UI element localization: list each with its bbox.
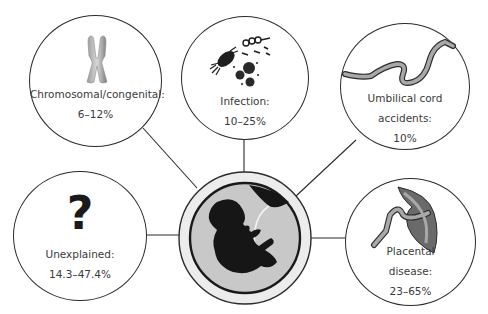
unexplained-value: 14.3–47.4% xyxy=(14,264,146,284)
fetus-in-womb-icon xyxy=(177,170,313,306)
infection-label: Infection: 10–25% xyxy=(182,91,308,131)
node-umbilical: Umbilical cord accidents: 10% xyxy=(340,23,470,150)
microbes-icon xyxy=(204,31,294,91)
umbilical-title-line1: Umbilical cord xyxy=(341,88,469,108)
placental-title-line1: Placental xyxy=(346,241,475,261)
umbilical-label: Umbilical cord accidents: 10% xyxy=(341,88,469,148)
placental-value: 23–65% xyxy=(346,281,475,301)
stillbirth-causes-diagram: Chromosomal/congenital: 6–12% Infection:… xyxy=(0,0,488,314)
node-placental: Placental disease: 23–65% xyxy=(345,178,476,306)
unexplained-title: Unexplained: xyxy=(14,244,146,264)
chromosome-icon xyxy=(77,34,117,84)
unexplained-label: Unexplained: 14.3–47.4% xyxy=(14,244,146,284)
umbilical-value: 10% xyxy=(341,128,469,148)
umbilical-title-line2: accidents: xyxy=(341,108,469,128)
chromosomal-label: Chromosomal/congenital: 6–12% xyxy=(30,84,161,124)
infection-value: 10–25% xyxy=(182,111,308,131)
placental-label: Placental disease: 23–65% xyxy=(346,241,475,301)
placental-title-line2: disease: xyxy=(346,261,475,281)
question-mark-icon: ? xyxy=(14,186,146,240)
node-infection: Infection: 10–25% xyxy=(181,16,309,140)
umbilical-cord-icon xyxy=(341,28,471,88)
node-unexplained: ? Unexplained: 14.3–47.4% xyxy=(13,171,147,301)
node-chromosomal: Chromosomal/congenital: 6–12% xyxy=(29,15,162,147)
chromosomal-value: 6–12% xyxy=(30,104,161,124)
chromosomal-title: Chromosomal/congenital: xyxy=(30,84,161,104)
infection-title: Infection: xyxy=(182,91,308,111)
